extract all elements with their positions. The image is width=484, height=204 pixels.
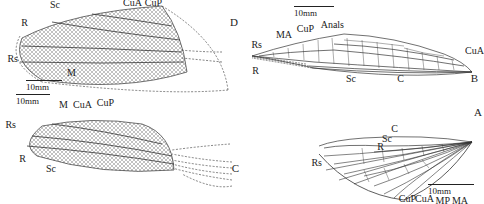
panel-a: A C Sc R Rs CuP CuA MP MA 10mm	[242, 102, 484, 204]
vein-label-r: R	[21, 18, 28, 28]
vein-label-r: R	[19, 154, 26, 164]
scale-bar-a: 10mm	[428, 187, 474, 196]
scale-bar-d-text: 10mm	[26, 82, 49, 92]
scale-bar-a-text: 10mm	[428, 186, 451, 196]
vein-label-cup: CuP	[399, 194, 416, 204]
wing-b-drawing	[242, 0, 484, 102]
scale-bar-b-text: 10mm	[294, 8, 317, 18]
vein-label-r: R	[252, 66, 259, 76]
panel-d-label: D	[230, 17, 238, 28]
vein-label-ma: MA	[276, 30, 292, 40]
vein-label-sc: Sc	[46, 164, 56, 174]
wing-c-drawing	[0, 102, 242, 204]
vein-label-rs: Rs	[251, 40, 262, 50]
wing-venation-figure: A C Sc R Rs CuP CuA MP MA 10mm	[0, 0, 484, 204]
panel-d: D R Sc Rs M CuA CuP 10mm	[0, 0, 242, 102]
panel-b-label: B	[471, 73, 478, 84]
vein-label-cua: CuA	[465, 46, 484, 56]
vein-label-m: M	[67, 68, 76, 78]
vein-label-rs: Rs	[5, 120, 16, 130]
vein-label-cup: CuP	[297, 24, 314, 34]
vein-label-ma: MA	[452, 196, 468, 204]
scale-bar-b: 10mm	[294, 9, 334, 18]
panel-b: B C Sc R Rs MA CuP Anals CuA 10mm	[242, 0, 484, 102]
vein-label-cua: CuA	[123, 0, 142, 8]
vein-label-sc: Sc	[346, 74, 356, 84]
panel-a-label: A	[474, 107, 482, 118]
vein-label-sc: Sc	[50, 0, 60, 10]
scale-bar-d: 10mm	[26, 83, 62, 92]
vein-label-rs: Rs	[7, 54, 18, 64]
panel-c: C Sc R Rs M CuA CuP 10mm	[0, 102, 242, 204]
vein-label-cup: CuP	[145, 0, 162, 8]
vein-label-anals: Anals	[321, 20, 344, 30]
vein-label-c: C	[397, 74, 404, 84]
vein-label-rs: Rs	[311, 158, 322, 168]
vein-label-mp: MP	[436, 196, 450, 204]
vein-label-r: R	[377, 142, 384, 152]
panel-c-label: C	[232, 163, 239, 174]
vein-label-c: C	[391, 124, 398, 134]
